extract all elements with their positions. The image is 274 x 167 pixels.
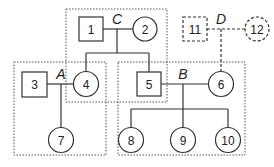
node-9: 9 (171, 128, 196, 153)
node-10-label: 10 (221, 134, 235, 148)
node-1-label: 1 (88, 23, 95, 37)
couple-a-lines (47, 84, 74, 128)
couple-label-c: C (112, 11, 123, 27)
node-3-label: 3 (31, 78, 38, 92)
node-11: 11 (183, 17, 207, 41)
node-9-label: 9 (180, 134, 187, 148)
node-12: 12 (245, 17, 269, 41)
node-7-label: 7 (58, 134, 65, 148)
couple-label-a: A (55, 66, 65, 82)
node-1: 1 (79, 17, 103, 41)
couple-label-b: B (178, 66, 187, 82)
node-6-label: 6 (218, 78, 225, 92)
node-11-label: 11 (189, 23, 202, 37)
node-6: 6 (209, 72, 234, 97)
node-3: 3 (22, 72, 47, 97)
node-4: 4 (74, 72, 99, 97)
node-10: 10 (216, 128, 241, 153)
node-5: 5 (137, 72, 161, 96)
node-4-label: 4 (83, 78, 90, 92)
couple-label-d: D (216, 11, 226, 27)
node-8: 8 (119, 128, 144, 153)
node-2-label: 2 (142, 23, 149, 37)
node-2: 2 (133, 17, 157, 41)
node-7: 7 (49, 128, 74, 153)
pedigree-diagram: C D A B 1 2 3 4 5 6 7 8 9 10 (0, 0, 274, 167)
couple-d-lines (207, 29, 245, 72)
node-5-label: 5 (146, 78, 153, 92)
node-12-label: 12 (250, 23, 264, 37)
node-8-label: 8 (128, 134, 135, 148)
